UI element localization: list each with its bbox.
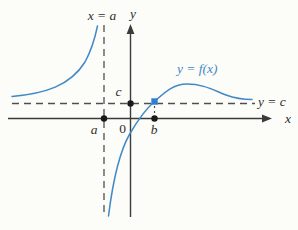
y-axis-label: y	[128, 6, 136, 21]
curve-label: y = f(x)	[175, 61, 218, 76]
b-tick-label: b	[151, 122, 158, 137]
figure-background	[0, 0, 298, 230]
a-tick-label: a	[91, 122, 98, 137]
origin-label: 0	[119, 121, 126, 136]
x-axis-label: x	[284, 111, 291, 126]
c-tick-label: c	[116, 84, 122, 99]
vertical-asymptote-label: x = a	[87, 8, 117, 23]
horizontal-asymptote-label: y = c	[256, 94, 286, 109]
point-a-dot	[101, 115, 107, 121]
point-on-curve-dot	[151, 98, 157, 104]
function-graph-figure: x = a y x y = f(x) y = c c 0 a b	[0, 0, 298, 230]
point-c-dot	[127, 100, 133, 106]
point-b-dot	[151, 115, 157, 121]
figure-canvas: x = a y x y = f(x) y = c c 0 a b	[0, 0, 298, 230]
